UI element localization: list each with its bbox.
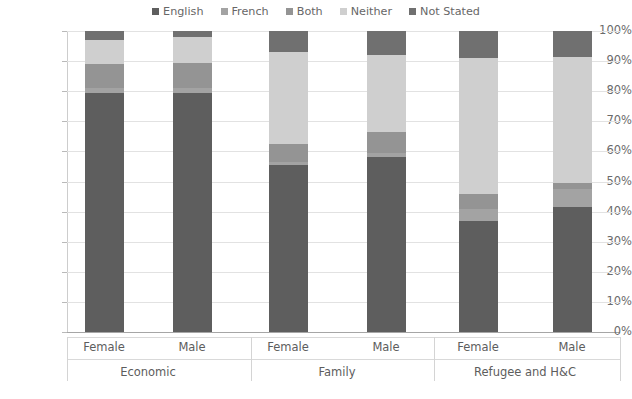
bar-segment-neither[interactable] (553, 57, 592, 183)
bar-segment-english[interactable] (459, 221, 498, 332)
x-axis-line (67, 332, 620, 333)
gridline (67, 61, 620, 62)
legend-item-not-stated[interactable]: Not Stated (409, 6, 480, 17)
gridline (67, 212, 620, 213)
bar-segment-both[interactable] (269, 144, 308, 162)
legend-item-neither[interactable]: Neither (340, 6, 392, 17)
bar-column[interactable] (269, 31, 308, 332)
bar-segment-french[interactable] (269, 162, 308, 165)
bar-segment-neither[interactable] (85, 40, 124, 64)
legend-swatch-icon (152, 8, 159, 15)
chart-legend: EnglishFrenchBothNeitherNot Stated (0, 3, 632, 21)
bar-segment-not-stated[interactable] (85, 31, 124, 40)
legend-swatch-icon (286, 8, 293, 15)
bar-column[interactable] (459, 31, 498, 332)
y-axis-tick-mark (62, 332, 67, 333)
x-axis-band-mid-divider (67, 359, 620, 360)
legend-item-both[interactable]: Both (286, 6, 323, 17)
bar-segment-english[interactable] (367, 157, 406, 332)
bar-segment-not-stated[interactable] (269, 31, 308, 52)
bar-column[interactable] (85, 31, 124, 332)
legend-label: Not Stated (420, 6, 480, 17)
gridline (67, 272, 620, 273)
x-axis-category-label: Female (433, 339, 523, 356)
bar-segment-both[interactable] (553, 183, 592, 189)
bar-segment-neither[interactable] (269, 52, 308, 144)
bar-segment-neither[interactable] (367, 55, 406, 132)
legend-swatch-icon (340, 8, 347, 15)
gridline (67, 31, 620, 32)
gridline (67, 182, 620, 183)
bar-column[interactable] (367, 31, 406, 332)
bar-segment-neither[interactable] (459, 58, 498, 193)
bar-column[interactable] (173, 31, 212, 332)
bar-segment-both[interactable] (85, 64, 124, 88)
gridline (67, 121, 620, 122)
x-axis-category-label: Male (147, 339, 237, 356)
x-axis-category-label: Female (243, 339, 333, 356)
bar-segment-not-stated[interactable] (367, 31, 406, 55)
legend-swatch-icon (221, 8, 228, 15)
legend-label: French (232, 6, 269, 17)
x-axis-group-separator (434, 337, 435, 381)
bar-segment-french[interactable] (459, 209, 498, 221)
gridline (67, 91, 620, 92)
x-axis-group-separator (67, 337, 68, 381)
x-axis-category-label: Male (341, 339, 431, 356)
bar-segment-english[interactable] (269, 165, 308, 332)
bar-segment-not-stated[interactable] (553, 31, 592, 57)
x-axis-group-label: Refugee and H&C (445, 364, 605, 380)
bar-segment-french[interactable] (367, 153, 406, 158)
bar-segment-english[interactable] (553, 207, 592, 332)
bar-segment-french[interactable] (553, 189, 592, 207)
bar-segment-both[interactable] (459, 194, 498, 209)
legend-label: English (163, 6, 203, 17)
bar-segment-neither[interactable] (173, 37, 212, 63)
legend-item-english[interactable]: English (152, 6, 203, 17)
bar-column[interactable] (553, 31, 592, 332)
bar-segment-french[interactable] (173, 88, 212, 93)
x-axis-group-label: Economic (68, 364, 228, 380)
legend-swatch-icon (409, 8, 416, 15)
bar-segment-both[interactable] (367, 132, 406, 153)
bar-segment-english[interactable] (173, 93, 212, 332)
x-axis-group-separator (620, 337, 621, 381)
legend-item-french[interactable]: French (221, 6, 269, 17)
legend-label: Neither (351, 6, 392, 17)
bar-segment-both[interactable] (173, 63, 212, 89)
legend-label: Both (297, 6, 323, 17)
bar-segment-french[interactable] (85, 88, 124, 93)
plot-area (67, 31, 620, 332)
stacked-bar-chart: EnglishFrenchBothNeitherNot Stated 100%9… (0, 0, 632, 399)
x-axis-category-label: Female (59, 339, 149, 356)
gridline (67, 242, 620, 243)
x-axis-band-top-divider (67, 337, 620, 338)
gridline (67, 302, 620, 303)
bar-segment-english[interactable] (85, 93, 124, 332)
bar-segment-not-stated[interactable] (173, 31, 212, 37)
x-axis-group-label: Family (257, 364, 417, 380)
bar-segment-not-stated[interactable] (459, 31, 498, 58)
gridline (67, 151, 620, 152)
x-axis-group-separator (251, 337, 252, 381)
x-axis-category-label: Male (527, 339, 617, 356)
